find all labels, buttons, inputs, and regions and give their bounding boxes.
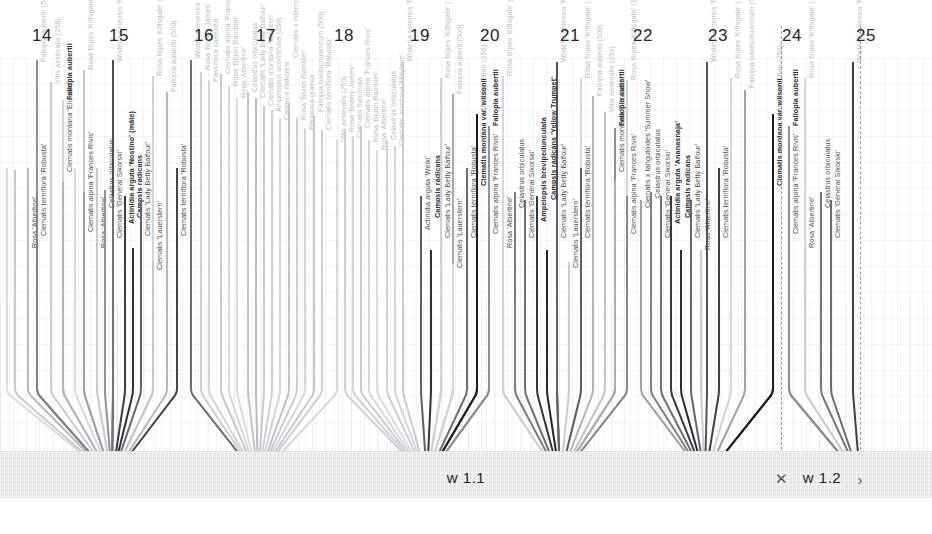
plant-stem[interactable] bbox=[27, 168, 29, 388]
plant-stem[interactable] bbox=[420, 196, 422, 388]
plant-stem[interactable] bbox=[376, 150, 378, 388]
plant-stem[interactable] bbox=[208, 80, 210, 388]
plant-stem[interactable] bbox=[440, 264, 442, 388]
plant-stem[interactable] bbox=[706, 62, 708, 388]
plant-stem[interactable] bbox=[255, 98, 257, 388]
plant-label: Actinidia arguta 'Weiki' bbox=[424, 156, 431, 230]
plant-stem[interactable] bbox=[744, 90, 746, 388]
plant-stem[interactable] bbox=[176, 168, 178, 388]
plant-label: Clematis 'Lady Betty Balfour' bbox=[560, 144, 567, 238]
plant-stem[interactable] bbox=[680, 250, 682, 388]
plant-stem[interactable] bbox=[476, 170, 478, 388]
plant-stem[interactable] bbox=[640, 200, 642, 388]
plant-stem[interactable] bbox=[536, 196, 538, 388]
plant-stem[interactable] bbox=[368, 140, 370, 388]
scale-tick-19: 19 bbox=[410, 26, 430, 46]
plant-label: Celastrus orbiculatus bbox=[824, 139, 831, 208]
plant-stem[interactable] bbox=[556, 200, 558, 388]
plant-stem[interactable] bbox=[394, 146, 396, 388]
plant-stem[interactable] bbox=[524, 200, 526, 388]
plant-stem[interactable] bbox=[96, 168, 98, 388]
plant-stem[interactable] bbox=[700, 250, 702, 388]
plant-stem[interactable] bbox=[514, 192, 516, 388]
plant-stem[interactable] bbox=[360, 126, 362, 388]
scale-tick-14: 14 bbox=[32, 26, 52, 46]
plant-stem[interactable] bbox=[62, 182, 64, 388]
plant-stem[interactable] bbox=[604, 112, 606, 388]
plant-label: Clematis terniflora 'Robusta' bbox=[584, 146, 591, 238]
plant-stem[interactable] bbox=[804, 248, 806, 388]
plant-label: Clematis montana 'Elizabeth' bbox=[66, 77, 73, 172]
plant-stem[interactable] bbox=[788, 196, 790, 388]
plant-stem[interactable] bbox=[288, 104, 290, 388]
plant-stem[interactable] bbox=[772, 170, 774, 388]
plant-stem[interactable] bbox=[236, 98, 238, 388]
plant-stem[interactable] bbox=[279, 118, 281, 388]
plant-stem[interactable] bbox=[6, 168, 8, 388]
plant-stem[interactable] bbox=[614, 180, 616, 388]
plant-stem[interactable] bbox=[502, 248, 504, 388]
plant-label: Rosa 'Albertine' bbox=[506, 197, 513, 249]
plant-stem[interactable] bbox=[321, 130, 323, 388]
plant-stem[interactable] bbox=[592, 96, 594, 388]
scale-tick-18: 18 bbox=[334, 26, 354, 46]
plant-stem[interactable] bbox=[104, 190, 106, 388]
plant-stem[interactable] bbox=[690, 200, 692, 388]
plant-stem[interactable] bbox=[344, 130, 346, 388]
stems-layer: Rosa 'Albertine'Fallopia aubertii (500)C… bbox=[0, 0, 932, 478]
plant-stem[interactable] bbox=[580, 168, 582, 388]
plant-stem[interactable] bbox=[852, 62, 854, 388]
plant-stem[interactable] bbox=[296, 118, 298, 388]
plant-stem[interactable] bbox=[247, 92, 249, 388]
plant-stem[interactable] bbox=[650, 192, 652, 388]
plant-label: Clematis alpina 'Frances Rivis' bbox=[492, 133, 499, 234]
plant-stem[interactable] bbox=[670, 196, 672, 388]
plant-stem[interactable] bbox=[200, 72, 202, 388]
plant-stem[interactable] bbox=[190, 60, 192, 388]
scale-tick-23: 23 bbox=[708, 26, 728, 46]
plant-label: Clematis x tangutoides 'Summer Snow' bbox=[644, 80, 651, 208]
plant-stem[interactable] bbox=[386, 140, 388, 388]
plant-stem[interactable] bbox=[152, 262, 154, 388]
diagram-canvas: Rosa 'Albertine'Fallopia aubertii (500)C… bbox=[0, 0, 932, 534]
plant-stem[interactable] bbox=[546, 250, 548, 388]
plant-stem[interactable] bbox=[228, 86, 230, 388]
plant-stem[interactable] bbox=[718, 168, 720, 388]
plant-stem[interactable] bbox=[568, 262, 570, 388]
plant-stem[interactable] bbox=[488, 196, 490, 388]
plant-stem[interactable] bbox=[263, 106, 265, 388]
scale-tick-17: 17 bbox=[256, 26, 276, 46]
plant-stem[interactable] bbox=[140, 200, 142, 388]
plant-stem[interactable] bbox=[830, 200, 832, 388]
plant-stem[interactable] bbox=[452, 264, 454, 388]
plant-stem[interactable] bbox=[50, 82, 52, 388]
plant-stem[interactable] bbox=[220, 74, 222, 388]
plant-stem[interactable] bbox=[166, 92, 168, 388]
plant-label: Clematis terniflora 'Robusta' bbox=[722, 146, 729, 238]
scale-tick-15: 15 bbox=[109, 26, 129, 46]
plant-stem[interactable] bbox=[660, 196, 662, 388]
plant-stem[interactable] bbox=[313, 116, 315, 388]
plant-stem[interactable] bbox=[626, 196, 628, 388]
plant-stem[interactable] bbox=[74, 168, 76, 388]
plant-stem[interactable] bbox=[336, 140, 338, 388]
plant-stem[interactable] bbox=[730, 78, 732, 388]
plant-stem[interactable] bbox=[14, 170, 16, 388]
plant-stem[interactable] bbox=[36, 192, 38, 388]
plant-stem[interactable] bbox=[820, 192, 822, 388]
plant-stem[interactable] bbox=[352, 136, 354, 388]
plant-stem[interactable] bbox=[402, 62, 404, 388]
plant-stem[interactable] bbox=[430, 250, 432, 388]
plant-stem[interactable] bbox=[132, 248, 134, 388]
plant-label: Clematis montana var. wilsonii bbox=[776, 78, 783, 186]
plant-stem[interactable] bbox=[112, 196, 114, 388]
plant-stem[interactable] bbox=[83, 192, 85, 388]
plant-label: Fallopia aubertii bbox=[792, 69, 799, 126]
plant-label: Clematis 'Lauerstern' bbox=[456, 199, 463, 268]
plant-stem[interactable] bbox=[124, 196, 126, 388]
plant-label: Celastrus orbiculatus bbox=[654, 129, 661, 198]
plant-stem[interactable] bbox=[304, 128, 306, 388]
plant-stem[interactable] bbox=[466, 168, 468, 388]
plant-label: Clematis montana 'Elizabeth' bbox=[618, 77, 625, 172]
plant-stem[interactable] bbox=[271, 110, 273, 388]
